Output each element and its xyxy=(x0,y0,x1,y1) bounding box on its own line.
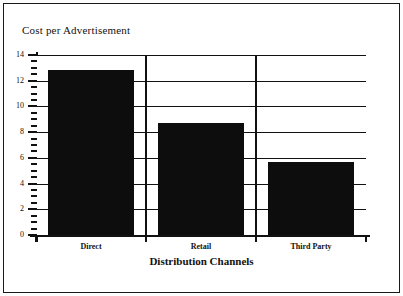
y-axis-major-tick xyxy=(28,105,37,107)
gridline xyxy=(146,81,256,82)
y-axis-minor-tick xyxy=(31,86,37,88)
gridline xyxy=(256,81,366,82)
bar xyxy=(48,70,134,235)
gridline xyxy=(256,106,366,107)
y-axis-minor-tick xyxy=(31,112,37,114)
y-axis-minor-tick xyxy=(31,144,37,146)
chart-figure: Cost per Advertisement 02468101214 Direc… xyxy=(0,0,403,296)
y-axis-major-tick xyxy=(28,183,37,185)
panel-divider xyxy=(255,55,257,235)
y-axis-minor-tick xyxy=(31,93,37,95)
x-axis-category-label: Third Party xyxy=(256,242,366,251)
y-axis-major-tick xyxy=(28,131,37,133)
x-axis-tick xyxy=(365,235,367,242)
panel-divider xyxy=(145,55,147,235)
y-axis-minor-tick xyxy=(31,125,37,127)
y-axis-minor-tick xyxy=(31,99,37,101)
y-axis-minor-tick xyxy=(31,73,37,75)
gridline xyxy=(146,106,256,107)
y-axis-tick-label: 8 xyxy=(4,127,24,136)
y-axis-major-tick xyxy=(28,208,37,210)
y-axis-major-tick xyxy=(28,80,37,82)
gridline xyxy=(36,55,146,56)
y-axis-minor-tick xyxy=(31,176,37,178)
x-axis-category-label: Direct xyxy=(36,242,146,251)
y-axis-minor-tick xyxy=(31,118,37,120)
y-axis-minor-tick xyxy=(31,189,37,191)
y-axis-minor-tick xyxy=(31,221,37,223)
chart-title: Cost per Advertisement xyxy=(22,24,130,36)
x-axis-tick xyxy=(145,235,147,242)
x-axis-title: Distribution Channels xyxy=(0,255,403,267)
y-axis-tick-label: 0 xyxy=(4,230,24,239)
y-axis-tick-label: 2 xyxy=(4,204,24,213)
y-axis-minor-tick xyxy=(31,67,37,69)
gridline xyxy=(256,132,366,133)
y-axis-major-tick xyxy=(28,157,37,159)
plot-area xyxy=(36,55,366,235)
y-axis-minor-tick xyxy=(31,163,37,165)
bar xyxy=(268,162,354,235)
x-axis-line xyxy=(30,235,370,237)
y-axis-tick-label: 10 xyxy=(4,101,24,110)
y-axis-minor-tick xyxy=(31,138,37,140)
bar xyxy=(158,123,244,235)
y-axis-minor-tick xyxy=(31,195,37,197)
y-axis-minor-tick xyxy=(31,150,37,152)
y-axis-tick-label: 14 xyxy=(4,50,24,59)
y-axis-minor-tick xyxy=(31,60,37,62)
y-axis-minor-tick xyxy=(31,170,37,172)
y-axis-major-tick xyxy=(28,54,37,56)
y-axis-minor-tick xyxy=(31,202,37,204)
y-axis-tick-label: 6 xyxy=(4,153,24,162)
y-axis-minor-tick xyxy=(31,228,37,230)
x-axis-tick xyxy=(35,235,37,242)
gridline xyxy=(146,55,256,56)
x-axis-category-label: Retail xyxy=(146,242,256,251)
y-axis-tick-label: 12 xyxy=(4,76,24,85)
y-axis-tick-label: 4 xyxy=(4,179,24,188)
x-axis-tick xyxy=(255,235,257,242)
gridline xyxy=(256,158,366,159)
y-axis-minor-tick xyxy=(31,215,37,217)
gridline xyxy=(256,55,366,56)
